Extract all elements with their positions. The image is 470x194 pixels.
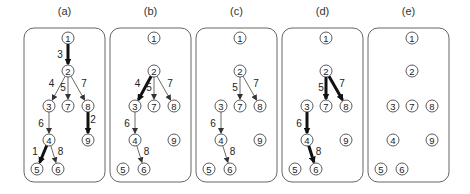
- node-1: 1: [62, 32, 74, 44]
- edge-weight-label: 7: [167, 78, 173, 89]
- node-4: 4: [387, 134, 399, 146]
- node-8: 8: [426, 100, 438, 112]
- node-4: 4: [215, 134, 227, 146]
- svg-text:5: 5: [206, 164, 211, 175]
- node-2: 2: [148, 65, 160, 77]
- svg-text:2: 2: [409, 66, 414, 77]
- node-6: 6: [396, 163, 408, 175]
- node-9: 9: [254, 134, 266, 146]
- svg-text:9: 9: [171, 135, 176, 146]
- svg-text:6: 6: [141, 164, 146, 175]
- svg-text:9: 9: [343, 135, 348, 146]
- node-9: 9: [82, 134, 94, 146]
- node-7: 7: [62, 100, 74, 112]
- node-9: 9: [426, 134, 438, 146]
- svg-text:8: 8: [85, 101, 90, 112]
- svg-text:9: 9: [429, 135, 434, 146]
- node-2: 2: [406, 65, 418, 77]
- svg-text:3: 3: [218, 101, 223, 112]
- svg-text:3: 3: [132, 101, 137, 112]
- node-3: 3: [215, 100, 227, 112]
- edge-weight-label: 8: [230, 146, 236, 157]
- svg-text:5: 5: [34, 164, 39, 175]
- edge-weight-label: 5: [232, 82, 238, 93]
- edge-weight-label: 7: [253, 78, 259, 89]
- edge-weight-label: 6: [296, 118, 302, 129]
- edge-4-6: [309, 146, 314, 163]
- node-4: 4: [129, 134, 141, 146]
- svg-text:2: 2: [237, 66, 242, 77]
- svg-text:1: 1: [323, 33, 328, 44]
- svg-text:6: 6: [55, 164, 60, 175]
- node-5: 5: [117, 163, 129, 175]
- panel-label: (e): [402, 5, 415, 17]
- panel-b: (b)45768123456789: [110, 5, 191, 182]
- edge-4-5: [40, 146, 47, 163]
- node-6: 6: [224, 163, 236, 175]
- edge-weight-label: 4: [135, 78, 141, 89]
- panel-label: (a): [58, 5, 71, 17]
- panel-label: (d): [316, 5, 329, 17]
- svg-text:6: 6: [313, 164, 318, 175]
- svg-text:4: 4: [390, 135, 395, 146]
- panel-label: (c): [230, 5, 243, 17]
- node-2: 2: [234, 65, 246, 77]
- svg-text:5: 5: [120, 164, 125, 175]
- edge-weight-label: 3: [57, 49, 63, 60]
- node-7: 7: [406, 100, 418, 112]
- node-3: 3: [129, 100, 141, 112]
- svg-text:4: 4: [46, 135, 51, 146]
- node-1: 1: [406, 32, 418, 44]
- svg-text:3: 3: [46, 101, 51, 112]
- svg-text:8: 8: [171, 101, 176, 112]
- node-9: 9: [340, 134, 352, 146]
- svg-text:7: 7: [65, 101, 70, 112]
- svg-text:2: 2: [151, 66, 156, 77]
- node-1: 1: [148, 32, 160, 44]
- svg-text:8: 8: [257, 101, 262, 112]
- node-6: 6: [138, 163, 150, 175]
- node-3: 3: [43, 100, 55, 112]
- svg-text:6: 6: [399, 164, 404, 175]
- node-8: 8: [168, 100, 180, 112]
- node-9: 9: [168, 134, 180, 146]
- edge-weight-label: 8: [316, 146, 322, 157]
- edge-weight-label: 8: [58, 146, 64, 157]
- node-7: 7: [148, 100, 160, 112]
- node-1: 1: [234, 32, 246, 44]
- node-8: 8: [340, 100, 352, 112]
- svg-text:5: 5: [292, 164, 297, 175]
- node-4: 4: [301, 134, 313, 146]
- node-6: 6: [52, 163, 64, 175]
- edge-weight-label: 5: [146, 82, 152, 93]
- svg-text:9: 9: [257, 135, 262, 146]
- node-4: 4: [43, 134, 55, 146]
- edge-weight-label: 5: [60, 82, 66, 93]
- svg-text:7: 7: [409, 101, 414, 112]
- edge-weight-label: 6: [38, 118, 44, 129]
- edge-4-6: [137, 146, 142, 163]
- node-7: 7: [234, 100, 246, 112]
- node-5: 5: [203, 163, 215, 175]
- edge-weight-label: 1: [32, 146, 38, 157]
- svg-text:1: 1: [237, 33, 242, 44]
- node-6: 6: [310, 163, 322, 175]
- edge-weight-label: 2: [90, 114, 96, 125]
- node-1: 1: [320, 32, 332, 44]
- svg-text:4: 4: [218, 135, 223, 146]
- svg-text:8: 8: [343, 101, 348, 112]
- panel-c: (c)5768123456789: [196, 5, 277, 182]
- node-3: 3: [387, 100, 399, 112]
- svg-text:7: 7: [323, 101, 328, 112]
- diagram-canvas: (a)34572618123456789(b)45768123456789(c)…: [0, 0, 470, 194]
- node-2: 2: [62, 65, 74, 77]
- svg-text:2: 2: [65, 66, 70, 77]
- node-8: 8: [82, 100, 94, 112]
- svg-text:3: 3: [390, 101, 395, 112]
- edge-weight-label: 6: [210, 118, 216, 129]
- node-2: 2: [320, 65, 332, 77]
- edge-4-6: [223, 146, 228, 163]
- svg-text:9: 9: [85, 135, 90, 146]
- edge-4-6: [51, 146, 56, 163]
- edge-weight-label: 5: [318, 82, 324, 93]
